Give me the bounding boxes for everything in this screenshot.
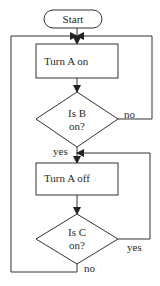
is-c-yes-label: yes (127, 241, 142, 253)
is-b-no-label: no (124, 108, 135, 120)
is-c-on-line2: on? (57, 239, 97, 251)
is-b-on-line2: on? (57, 120, 97, 132)
is-b-on-line1: Is B (57, 107, 97, 119)
start-label: Start (44, 13, 102, 25)
turn-a-off-label: Turn A off (44, 172, 90, 184)
is-b-yes-label: yes (53, 145, 68, 157)
is-c-no-label: no (84, 262, 95, 274)
is-c-on-line1: Is C (57, 226, 97, 238)
turn-a-on-label: Turn A on (44, 55, 88, 67)
